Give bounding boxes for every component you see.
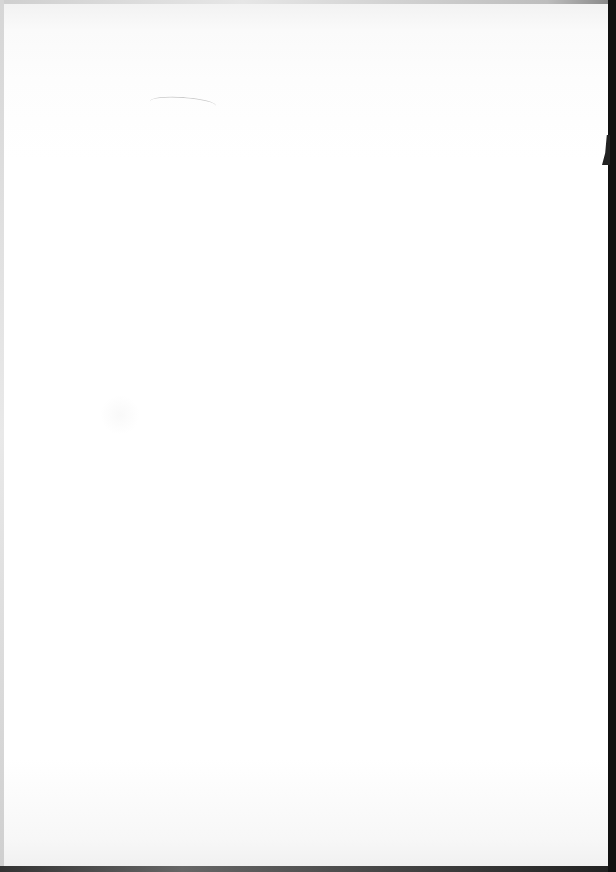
blank-scanned-page — [0, 0, 608, 869]
top-scan-shading — [0, 0, 608, 4]
left-scan-shading — [0, 0, 4, 869]
scanner-bottom-edge — [0, 866, 608, 872]
ink-showthrough — [100, 395, 140, 435]
